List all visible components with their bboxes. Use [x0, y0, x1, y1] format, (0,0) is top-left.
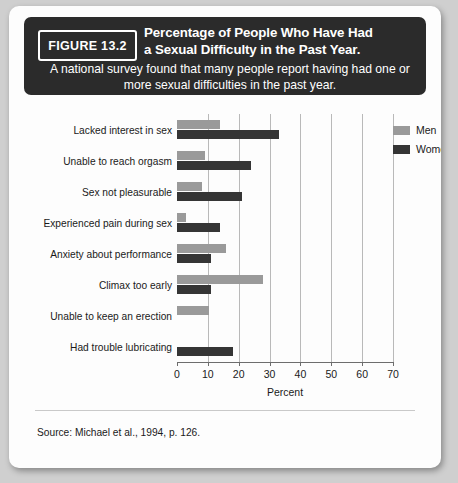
category-label: Anxiety about performance — [50, 248, 172, 259]
x-tick — [270, 362, 271, 366]
category-label: Unable to reach orgasm — [63, 155, 172, 166]
bar-men — [177, 213, 186, 222]
x-tick — [177, 362, 178, 366]
bar-men — [177, 182, 202, 191]
category-label: Experienced pain during sex — [43, 217, 172, 228]
category-label: Climax too early — [99, 279, 172, 290]
x-tick-label: 40 — [295, 368, 307, 380]
bar-women — [177, 285, 211, 294]
bar-women — [177, 192, 242, 201]
gridline — [362, 114, 363, 362]
source-note: Source: Michael et al., 1994, p. 126. — [37, 427, 200, 438]
legend-item-men: Men — [393, 124, 441, 136]
figure-title-line-2: a Sexual Difficulty in the Past Year. — [144, 42, 416, 59]
x-tick-label: 50 — [325, 368, 337, 380]
legend-item-women: Women — [393, 143, 441, 155]
x-tick — [331, 362, 332, 366]
x-tick-label: 20 — [233, 368, 245, 380]
x-axis-title: Percent — [177, 386, 393, 398]
x-tick-label: 30 — [264, 368, 276, 380]
legend-label-women: Women — [416, 143, 441, 155]
x-tick — [300, 362, 301, 366]
figure-title: Percentage of People Who Have Had a Sexu… — [144, 25, 416, 58]
figure-card: FIGURE 13.2 Percentage of People Who Hav… — [9, 6, 441, 468]
figure-title-line-1: Percentage of People Who Have Had — [144, 25, 416, 42]
x-tick-label: 70 — [387, 368, 399, 380]
legend-swatch-women — [393, 145, 410, 154]
bar-men — [177, 244, 226, 253]
legend-label-men: Men — [416, 124, 436, 136]
x-tick-label: 60 — [356, 368, 368, 380]
footer-divider — [35, 410, 415, 411]
plot-area — [177, 114, 393, 362]
bar-men — [177, 306, 209, 315]
x-tick-label: 10 — [202, 368, 214, 380]
bar-men — [177, 275, 263, 284]
figure-header: FIGURE 13.2 Percentage of People Who Hav… — [24, 17, 426, 95]
gridline — [331, 114, 332, 362]
gridline — [270, 114, 271, 362]
category-label: Had trouble lubricating — [70, 341, 172, 352]
x-tick — [239, 362, 240, 366]
category-label: Lacked interest in sex — [73, 124, 172, 135]
bar-men — [177, 120, 220, 129]
bar-women — [177, 223, 220, 232]
bar-women — [177, 347, 233, 356]
x-tick — [208, 362, 209, 366]
chart-legend: Men Women — [393, 124, 441, 162]
figure-number: FIGURE 13.2 — [38, 30, 137, 61]
category-axis-labels: Lacked interest in sexUnable to reach or… — [24, 114, 172, 362]
gridline — [300, 114, 301, 362]
bar-men — [177, 151, 205, 160]
x-tick-label: 0 — [174, 368, 180, 380]
x-tick — [393, 362, 394, 366]
x-tick — [362, 362, 363, 366]
gridline — [239, 114, 240, 362]
bar-women — [177, 161, 251, 170]
gridline — [208, 114, 209, 362]
bar-women — [177, 130, 279, 139]
legend-swatch-men — [393, 126, 410, 135]
figure-subtitle: A national survey found that many people… — [44, 61, 416, 93]
bar-chart: Lacked interest in sexUnable to reach or… — [24, 106, 426, 406]
bar-women — [177, 254, 211, 263]
category-label: Sex not pleasurable — [82, 186, 172, 197]
category-label: Unable to keep an erection — [50, 310, 172, 321]
